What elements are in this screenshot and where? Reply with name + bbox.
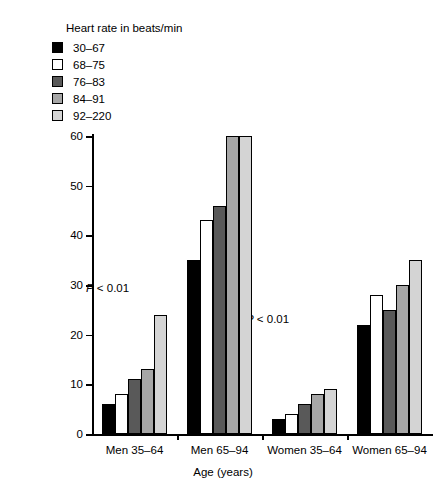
legend-item-label: 92–220: [73, 110, 111, 122]
legend-swatch-icon: [52, 42, 63, 53]
bar: [409, 260, 422, 434]
bar: [239, 136, 252, 434]
legend-swatch-icon: [52, 110, 63, 121]
bar-group: [347, 136, 432, 434]
bar: [396, 285, 409, 434]
y-tick-label: 40: [70, 229, 83, 241]
x-axis-title: Age (years): [0, 466, 446, 478]
bar: [311, 394, 324, 434]
legend-item: 68–75: [52, 56, 262, 73]
legend-item-label: 84–91: [73, 93, 105, 105]
legend-item: 84–91: [52, 90, 262, 107]
bar: [357, 325, 370, 434]
legend-item: 76–83: [52, 73, 262, 90]
bar-group: [262, 136, 347, 434]
p-value-text: < 0.01: [254, 313, 290, 325]
y-tick-label: 30: [70, 279, 83, 291]
bar: [102, 404, 115, 434]
legend-item: 92–220: [52, 107, 262, 124]
y-tick-label: 0: [77, 428, 83, 440]
bar: [298, 404, 311, 434]
bar: [285, 414, 298, 434]
y-tick-label: 50: [70, 180, 83, 192]
plot-area: 0102030405060: [92, 136, 432, 434]
legend-title: Heart rate in beats/min: [66, 22, 262, 34]
bar: [115, 394, 128, 434]
x-axis-group-label: Men 35–64: [106, 444, 164, 456]
legend-swatch-icon: [52, 93, 63, 104]
bar: [200, 220, 213, 434]
y-tick-label: 10: [70, 378, 83, 390]
y-tick-mark: [86, 434, 92, 436]
chart-legend: Heart rate in beats/min 30–6768–7576–838…: [52, 22, 262, 124]
bar: [272, 419, 285, 434]
legend-item: 30–67: [52, 39, 262, 56]
bar: [324, 389, 337, 434]
x-axis-group-label: Women 35–64: [267, 444, 342, 456]
bar: [226, 136, 239, 434]
x-tick-mark: [177, 434, 179, 440]
legend-item-label: 76–83: [73, 76, 105, 88]
legend-swatch-icon: [52, 76, 63, 87]
p-value-annotation: P < 0.01: [86, 282, 129, 294]
bar: [187, 260, 200, 434]
bar: [154, 315, 167, 434]
x-axis-group-label: Women 65–94: [352, 444, 427, 456]
p-value-text: < 0.01: [94, 282, 130, 294]
legend-swatch-icon: [52, 59, 63, 70]
p-value-annotation: P < 0.01: [246, 313, 289, 325]
y-tick-label: 20: [70, 329, 83, 341]
bar: [370, 295, 383, 434]
legend-item-label: 30–67: [73, 42, 105, 54]
y-tick-label: 60: [70, 130, 83, 142]
x-tick-mark: [262, 434, 264, 440]
bar-group: [177, 136, 262, 434]
bar: [128, 379, 141, 434]
bar: [213, 206, 226, 434]
bar: [141, 369, 154, 434]
x-tick-mark: [347, 434, 349, 440]
p-symbol: P: [86, 282, 94, 294]
bar-chart-figure: Heart rate in beats/min 30–6768–7576–838…: [0, 0, 446, 491]
legend-item-label: 68–75: [73, 59, 105, 71]
x-axis-group-label: Men 65–94: [191, 444, 249, 456]
bar: [383, 310, 396, 434]
legend-item-list: 30–6768–7576–8384–9192–220: [52, 39, 262, 124]
